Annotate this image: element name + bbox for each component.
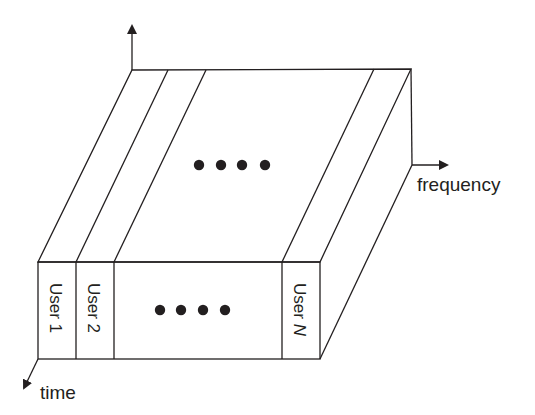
user-1-label: User 1 <box>46 283 65 333</box>
user-n-suffix: N <box>290 324 309 337</box>
frequency-label: frequency <box>417 174 501 195</box>
slice-line-n <box>282 69 374 262</box>
slice-line-2 <box>114 70 206 262</box>
fdma-diagram: frequency time User 1 User 2 User N <box>0 0 535 415</box>
user-2-label: User 2 <box>84 283 103 333</box>
front-ellipsis <box>155 305 230 315</box>
time-axis-arrow <box>24 359 38 388</box>
right-back-edge <box>411 69 412 165</box>
right-bottom-edge <box>320 165 412 359</box>
slice-line-1 <box>76 70 168 262</box>
time-label: time <box>40 382 76 403</box>
user-n-prefix: User <box>290 283 309 324</box>
top-ellipsis <box>194 160 270 170</box>
user-n-label: User N <box>290 283 309 337</box>
